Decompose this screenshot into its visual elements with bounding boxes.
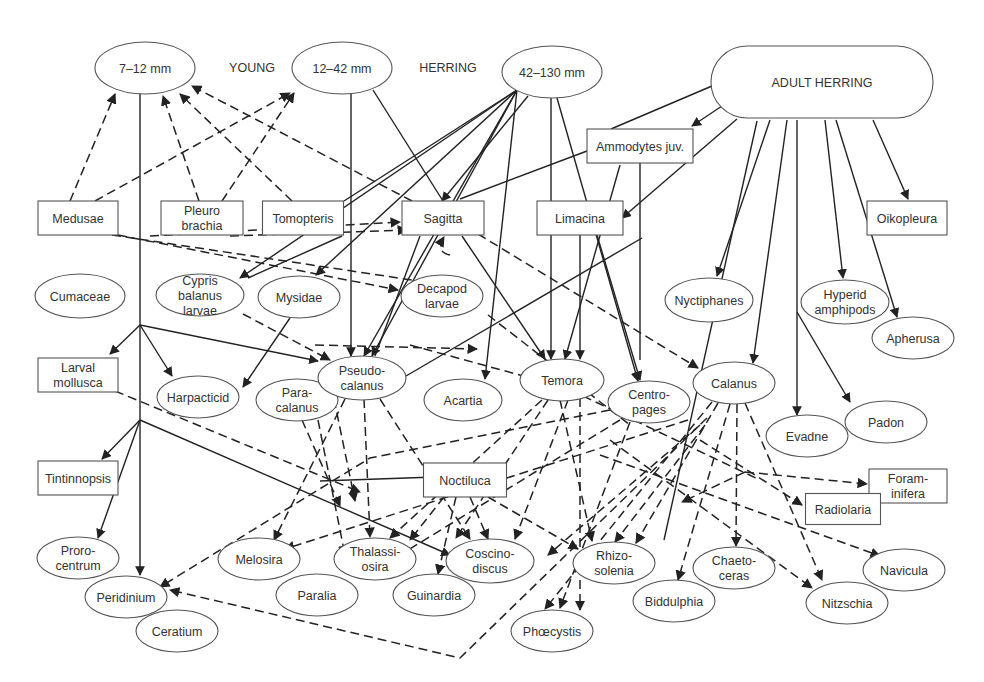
node-phaeocystis: Phœcystis	[511, 610, 593, 652]
solid-feeding-link	[344, 90, 517, 201]
node-label: Navicula	[880, 564, 928, 578]
node-label: 12–42 mm	[312, 62, 371, 76]
node-prorocentrum: Proro-centrum	[37, 537, 119, 579]
node-label: Calanus	[711, 377, 757, 391]
node-tomopteris: Tomopteris	[263, 201, 344, 235]
dashed-feeding-link	[515, 400, 568, 539]
node-label: Ceratium	[152, 625, 203, 639]
node-label: pages	[632, 403, 666, 417]
dashed-feeding-link	[441, 237, 450, 255]
node-label: Padon	[868, 416, 904, 430]
node-centropages: Centro-pages	[608, 381, 690, 423]
node-nyctiphanes: Nyctiphanes	[665, 278, 753, 322]
solid-feeding-link	[692, 106, 722, 126]
solid-feeding-link	[565, 165, 620, 359]
node-ceratium: Ceratium	[136, 610, 218, 652]
node-shape	[318, 356, 406, 400]
node-label: 7–12 mm	[119, 62, 171, 76]
node-label: Foram-	[888, 472, 928, 486]
node-h1242: 12–42 mm	[292, 42, 392, 94]
node-label: discus	[472, 562, 507, 576]
node-label: balanus	[178, 289, 222, 303]
node-label: Paralia	[298, 589, 337, 603]
node-chaetoceras: Chaeto-ceras	[693, 547, 775, 589]
dashed-feeding-link	[736, 404, 737, 546]
solid-feeding-link	[825, 120, 843, 278]
node-tintinnopsis: Tintinnopsis	[38, 461, 118, 495]
dashed-feeding-link	[180, 94, 292, 201]
node-biddulphia: Biddulphia	[633, 580, 715, 622]
dashed-feeding-link	[636, 403, 718, 543]
node-label: Guinardia	[407, 589, 461, 603]
node-label: Cypris	[182, 274, 217, 288]
node-label: calanus	[340, 379, 383, 393]
node-label: Pleuro	[184, 204, 220, 218]
node-label: Proro-	[61, 544, 96, 558]
solid-feeding-link	[240, 90, 517, 278]
node-limacina: Limacina	[537, 201, 623, 235]
solid-feeding-link	[140, 325, 318, 361]
node-label: Radiolaria	[815, 503, 871, 517]
node-calanus: Calanus	[693, 362, 775, 404]
node-label: solenia	[594, 564, 634, 578]
node-noctiluca: Noctiluca	[424, 463, 507, 497]
node-label: Tomopteris	[272, 212, 333, 226]
node-label: Temora	[541, 374, 583, 388]
node-guinardia: Guinardia	[393, 574, 475, 616]
node-label: Peridinium	[96, 591, 155, 605]
dashed-feeding-link	[615, 425, 705, 542]
node-padon: Padon	[845, 401, 927, 443]
node-label: Acartia	[444, 394, 483, 408]
node-label: Chaeto-	[712, 554, 756, 568]
herring-label: HERRING	[419, 61, 477, 75]
node-label: Melosira	[235, 553, 282, 567]
node-label: mollusca	[53, 376, 102, 390]
node-radiolaria: Radiolaria	[806, 494, 881, 525]
solid-feeding-link	[102, 420, 140, 459]
node-larvalmollusca: Larvalmollusca	[38, 358, 118, 392]
node-label: Nyctiphanes	[675, 294, 744, 308]
node-evadne: Evadne	[766, 415, 848, 457]
dashed-feeding-link	[70, 94, 115, 201]
node-label: Biddulphia	[645, 595, 703, 609]
node-ammodytes: Ammodytes juv.	[587, 129, 693, 163]
node-label: Evadne	[786, 430, 828, 444]
node-cypris: Cyprisbalanuslarvae	[156, 274, 244, 318]
node-label: brachia	[182, 219, 223, 233]
node-label: ceras	[719, 569, 750, 583]
dashed-feeding-link	[334, 399, 355, 501]
node-thalassiosira: Thalassi-osira	[334, 538, 416, 580]
solid-feeding-link	[664, 121, 757, 540]
node-apherusa: Apherusa	[872, 317, 954, 359]
dashed-feeding-link	[112, 235, 445, 285]
node-pleuro: Pleurobrachia	[161, 201, 243, 235]
node-mysidae: Mysidae	[258, 276, 340, 318]
node-adult: ADULT HERRING	[711, 46, 933, 118]
node-decapod: Decapodlarvae	[401, 275, 483, 317]
dashed-feeding-link	[163, 96, 199, 201]
node-label: Harpacticid	[167, 391, 230, 405]
solid-feeding-link	[717, 120, 770, 276]
dashed-feeding-link	[682, 472, 745, 502]
node-label: Mysidae	[276, 291, 323, 305]
dashed-feeding-link	[118, 235, 398, 290]
dashed-feeding-link	[95, 93, 290, 201]
node-shape	[801, 280, 889, 324]
node-temora: Temora	[520, 359, 604, 401]
solid-feeding-link	[797, 312, 850, 402]
node-label: Pseudo-	[339, 364, 386, 378]
dashed-feeding-link	[364, 399, 370, 537]
node-hyperid: Hyperidamphipods	[801, 280, 889, 324]
node-label: osira	[361, 560, 388, 574]
node-label: Centro-	[628, 388, 670, 402]
node-label: Ammodytes juv.	[596, 140, 684, 154]
node-label: Coscino-	[465, 547, 514, 561]
dashed-feeding-link	[560, 400, 592, 541]
solid-feeding-link	[110, 325, 140, 354]
solid-feeding-link	[140, 325, 172, 376]
node-label: larvae	[183, 304, 217, 318]
node-label: inifera	[891, 487, 925, 501]
node-h42130: 42–130 mm	[502, 46, 602, 98]
node-nitzschia: Nitzschia	[806, 582, 888, 624]
node-rhizosolenia: Rhizo-solenia	[573, 542, 655, 584]
